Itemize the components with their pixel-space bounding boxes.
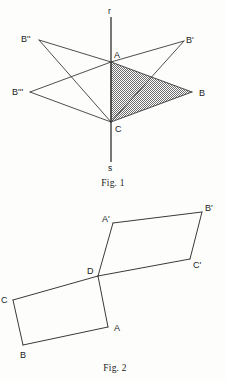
edge2-d-a [98, 276, 108, 327]
shaded-triangle-abc [111, 62, 192, 122]
edge2-bprime-cprime [190, 212, 202, 259]
label-point-b-prime: B' [186, 35, 194, 45]
edge-bdoubleprime-c [39, 40, 111, 122]
figure-page: r s A B C B' B'' B''' Fig. 1 A B C D A' … [0, 0, 226, 380]
label-point-c: C [115, 124, 122, 134]
label2-point-a: A [114, 323, 120, 333]
axis-label-s: s [108, 163, 112, 173]
edge2-d-aprime [98, 223, 113, 276]
label2-point-c-prime: C' [193, 260, 201, 270]
label2-point-c: C [1, 295, 8, 305]
label-point-a: A [114, 50, 120, 60]
edge-btripleprime-c [30, 92, 111, 122]
label-point-b-triple-prime: B''' [12, 87, 23, 97]
figure-2-drawing: A B C D A' B' C' [0, 190, 226, 380]
edge2-a-b [23, 327, 108, 345]
edge2-cprime-d [98, 259, 190, 276]
edge-a-bdoubleprime [39, 40, 111, 62]
axis-label-r: r [108, 6, 111, 16]
edge2-c-d [13, 276, 98, 300]
label2-point-d: D [87, 266, 94, 276]
figure-1-caption: Fig. 1 [0, 178, 226, 188]
figure-2-caption: Fig. 2 [2, 363, 226, 373]
edge-a-btripleprime [30, 62, 111, 92]
label2-point-a-prime: A' [102, 214, 110, 224]
edge-a-bprime [111, 41, 184, 62]
label2-point-b: B [20, 350, 26, 360]
figure-1-drawing: r s A B C B' B'' B''' [0, 0, 226, 190]
label-point-b: B [199, 88, 205, 98]
label2-point-b-prime: B' [205, 203, 213, 213]
label-point-b-double-prime: B'' [21, 34, 31, 44]
edge2-aprime-bprime [113, 212, 202, 223]
edge2-b-c [13, 300, 23, 345]
